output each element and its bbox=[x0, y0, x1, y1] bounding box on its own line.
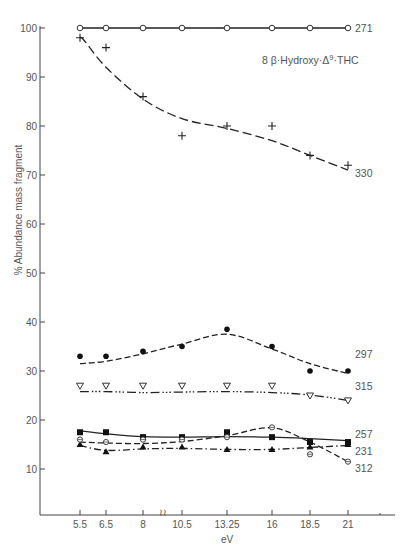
series-label-297: 297 bbox=[355, 348, 373, 360]
chart-canvas: 1020304050607080901005.56.5810.513.25161… bbox=[0, 0, 413, 558]
data-point-297 bbox=[140, 349, 146, 355]
data-point-312 bbox=[307, 452, 312, 457]
data-point-271 bbox=[345, 25, 351, 31]
data-point-312 bbox=[179, 437, 184, 442]
data-point-312 bbox=[103, 439, 108, 444]
data-point-297 bbox=[103, 354, 109, 360]
x-axis-label: eV bbox=[221, 534, 234, 545]
series-labels: 271330297315257231312 bbox=[355, 22, 373, 474]
data-point-330 bbox=[223, 122, 231, 130]
y-tick-label: 90 bbox=[26, 72, 38, 83]
series-label-257: 257 bbox=[355, 428, 373, 440]
y-tick-label: 80 bbox=[26, 121, 38, 132]
data-point-330 bbox=[76, 34, 84, 42]
data-point-231 bbox=[103, 448, 110, 454]
x-tick-label: 10.5 bbox=[172, 519, 192, 530]
data-point-271 bbox=[307, 25, 313, 31]
data-point-315 bbox=[345, 398, 352, 404]
x-tick-label: 6.5 bbox=[99, 519, 113, 530]
data-point-231 bbox=[140, 443, 147, 449]
data-point-231 bbox=[179, 443, 186, 449]
data-point-315 bbox=[77, 383, 84, 389]
data-point-297 bbox=[77, 354, 83, 360]
data-point-297 bbox=[269, 344, 275, 350]
data-point-312 bbox=[345, 459, 350, 464]
markers bbox=[76, 25, 352, 464]
data-point-315 bbox=[179, 383, 186, 389]
y-tick-label: 40 bbox=[26, 317, 38, 328]
data-point-330 bbox=[102, 44, 110, 52]
data-point-330 bbox=[268, 122, 276, 130]
y-axis-label: % Abundance mass fragment bbox=[13, 144, 24, 275]
data-point-330 bbox=[178, 132, 186, 140]
y-tick-label: 20 bbox=[26, 415, 38, 426]
y-tick-label: 30 bbox=[26, 366, 38, 377]
axes: 1020304050607080901005.56.5810.513.25161… bbox=[20, 23, 395, 531]
data-point-315 bbox=[269, 383, 276, 389]
data-point-330 bbox=[344, 161, 352, 169]
data-point-297 bbox=[307, 368, 313, 374]
data-point-257 bbox=[269, 434, 275, 440]
y-tick-label: 60 bbox=[26, 219, 38, 230]
y-tick-label: 100 bbox=[20, 23, 37, 34]
data-point-312 bbox=[77, 437, 82, 442]
series-label-271: 271 bbox=[355, 22, 373, 34]
data-point-257 bbox=[103, 429, 109, 435]
data-point-297 bbox=[179, 344, 185, 350]
x-tick-label: 13.25 bbox=[214, 519, 239, 530]
x-tick-label: 8 bbox=[140, 519, 146, 530]
y-tick-label: 50 bbox=[26, 268, 38, 279]
x-tick-label: 21 bbox=[342, 519, 354, 530]
data-point-315 bbox=[307, 393, 314, 399]
data-point-297 bbox=[345, 368, 351, 374]
series-label-231: 231 bbox=[355, 445, 373, 457]
data-point-271 bbox=[269, 25, 275, 31]
curve-297 bbox=[80, 334, 348, 373]
data-point-271 bbox=[103, 25, 109, 31]
data-point-330 bbox=[139, 93, 147, 101]
x-tick-label: 18.5 bbox=[300, 519, 320, 530]
axis-break-icon: ≀≀ bbox=[159, 507, 167, 518]
x-tick-label: 16 bbox=[266, 519, 278, 530]
y-tick-label: 10 bbox=[26, 464, 38, 475]
data-point-330 bbox=[306, 151, 314, 159]
data-point-312 bbox=[269, 425, 274, 430]
x-tick-label: 5.5 bbox=[73, 519, 87, 530]
y-tick-label: 70 bbox=[26, 170, 38, 181]
chart-title: 8 β·Hydroxy·Δ9·THC bbox=[262, 53, 359, 66]
data-point-257 bbox=[77, 429, 83, 435]
series-label-330: 330 bbox=[355, 167, 373, 179]
data-point-297 bbox=[224, 327, 230, 333]
data-point-271 bbox=[224, 25, 230, 31]
data-point-315 bbox=[224, 383, 231, 389]
curves bbox=[80, 28, 348, 462]
data-point-315 bbox=[140, 383, 147, 389]
series-label-315: 315 bbox=[355, 380, 373, 392]
series-label-312: 312 bbox=[355, 462, 373, 474]
data-point-312 bbox=[140, 437, 145, 442]
data-point-271 bbox=[77, 25, 83, 31]
data-point-271 bbox=[140, 25, 146, 31]
data-point-312 bbox=[224, 435, 229, 440]
data-point-271 bbox=[179, 25, 185, 31]
data-point-315 bbox=[103, 383, 110, 389]
